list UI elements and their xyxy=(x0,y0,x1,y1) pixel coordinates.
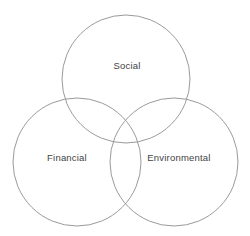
circle-social[interactable] xyxy=(62,15,190,143)
label-financial: Financial xyxy=(47,152,87,163)
label-environmental: Environmental xyxy=(147,152,210,163)
label-social: Social xyxy=(113,60,140,71)
venn-diagram-canvas: Social Financial Environmental xyxy=(0,0,250,236)
venn-diagram: Social Financial Environmental xyxy=(0,0,250,236)
